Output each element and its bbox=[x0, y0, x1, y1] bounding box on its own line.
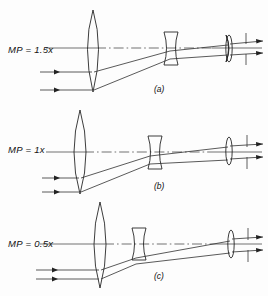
input-ray-upper-arrow-b bbox=[54, 176, 60, 181]
relay-ray-upper-b bbox=[150, 147, 228, 156]
converging-ray-upper-b bbox=[81, 156, 150, 178]
input-ray-lower-arrow-c bbox=[52, 277, 58, 282]
input-ray-upper-arrow-c bbox=[52, 268, 58, 273]
exit-ray-upper-arrow-b bbox=[256, 142, 263, 147]
mp-label-b: MP = 1x bbox=[8, 144, 45, 155]
objective-lens-a bbox=[88, 10, 99, 92]
exit-ray-upper-arrow-c bbox=[256, 235, 263, 240]
exit-ray-lower-arrow-c bbox=[256, 248, 263, 253]
converging-ray-upper-c bbox=[101, 258, 136, 270]
converging-ray-lower-c bbox=[101, 264, 136, 279]
panel-caption-a: (a) bbox=[154, 84, 164, 94]
converging-ray-lower-b bbox=[81, 164, 150, 192]
converging-ray-upper-a bbox=[94, 51, 170, 72]
mp-label-c: MP = 0.5x bbox=[8, 238, 53, 249]
eyepiece-lens-b bbox=[226, 137, 232, 165]
input-ray-upper-arrow-a bbox=[54, 70, 60, 75]
relay-ray-lower-a bbox=[170, 55, 228, 59]
negative-lens-a bbox=[164, 32, 178, 65]
negative-lens-c bbox=[132, 228, 146, 260]
relay-ray-lower-b bbox=[150, 160, 228, 164]
relay-ray-upper-c bbox=[136, 241, 230, 258]
panel-caption-c: (c) bbox=[154, 271, 164, 281]
figure-canvas: MP = 1.5x MP = 1x MP = 0.5x (a) (b) (c) bbox=[0, 0, 268, 296]
panel-caption-b: (b) bbox=[154, 181, 164, 191]
exit-ray-upper-arrow-a bbox=[256, 39, 263, 44]
exit-ray-lower-arrow-b bbox=[256, 155, 263, 160]
input-ray-lower-arrow-b bbox=[54, 190, 60, 195]
mp-label-a: MP = 1.5x bbox=[8, 44, 53, 55]
input-ray-lower-arrow-a bbox=[54, 88, 60, 93]
exit-ray-lower-arrow-a bbox=[256, 51, 263, 56]
relay-ray-lower-c bbox=[136, 253, 230, 264]
objective-lens-c bbox=[94, 202, 106, 288]
